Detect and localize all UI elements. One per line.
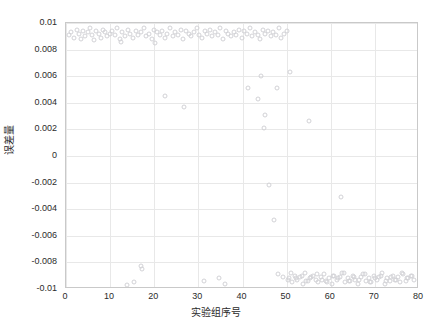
x-tick-label: 70 xyxy=(369,291,379,301)
data-point xyxy=(346,279,351,284)
gridline-horizontal xyxy=(66,209,417,210)
gridline-horizontal xyxy=(66,76,417,77)
data-point xyxy=(405,276,410,281)
x-tick-label: 0 xyxy=(62,291,67,301)
data-point xyxy=(168,26,173,31)
data-point xyxy=(288,70,293,75)
gridline-horizontal xyxy=(66,156,417,157)
data-point xyxy=(140,267,145,272)
y-tick-label: -0.002 xyxy=(0,177,57,187)
data-point xyxy=(272,217,277,222)
data-point xyxy=(152,40,157,45)
data-point xyxy=(336,276,341,281)
data-point xyxy=(92,38,97,43)
data-point xyxy=(321,272,326,277)
data-point xyxy=(293,276,298,281)
data-point xyxy=(165,31,170,36)
data-point xyxy=(216,276,221,281)
data-point xyxy=(276,26,281,31)
data-point xyxy=(285,277,290,282)
data-point xyxy=(289,280,294,285)
data-point xyxy=(221,36,226,41)
gridline-vertical xyxy=(243,23,244,287)
data-point xyxy=(258,36,263,41)
gridline-horizontal xyxy=(66,50,417,51)
gridline-horizontal xyxy=(66,262,417,263)
data-point xyxy=(263,112,268,117)
data-point xyxy=(146,31,151,36)
data-point xyxy=(284,28,289,33)
data-point xyxy=(262,126,267,131)
data-point xyxy=(329,281,334,286)
data-point xyxy=(314,272,319,277)
x-tick-label: 50 xyxy=(281,291,291,301)
data-point xyxy=(378,273,383,278)
data-point xyxy=(368,280,373,285)
data-point xyxy=(178,27,183,32)
gridline-horizontal xyxy=(66,183,417,184)
data-point xyxy=(299,273,304,278)
data-point xyxy=(69,30,74,35)
x-tick-label: 30 xyxy=(192,291,202,301)
gridline-horizontal xyxy=(66,23,417,24)
gridline-vertical xyxy=(110,23,111,287)
y-axis-label: 误差量 xyxy=(1,110,16,170)
y-tick-label: -0.008 xyxy=(0,256,57,266)
x-tick-label: 20 xyxy=(148,291,158,301)
y-tick-label: 0.008 xyxy=(0,44,57,54)
gridline-horizontal xyxy=(66,236,417,237)
data-point xyxy=(239,35,244,40)
data-point xyxy=(218,26,223,31)
chart-figure: 0.010.0080.0060.0040.0020-0.002-0.004-0.… xyxy=(0,0,432,331)
data-point xyxy=(199,35,204,40)
data-point xyxy=(115,26,120,31)
gridline-vertical xyxy=(198,23,199,287)
data-point xyxy=(234,32,239,37)
data-point xyxy=(399,271,404,276)
x-tick-label: 40 xyxy=(236,291,246,301)
gridline-horizontal xyxy=(66,129,417,130)
data-point xyxy=(247,26,252,31)
x-tick-label: 60 xyxy=(325,291,335,301)
data-point xyxy=(306,119,311,124)
y-tick-label: 0.006 xyxy=(0,70,57,80)
y-tick-label: -0.004 xyxy=(0,203,57,213)
data-point xyxy=(124,283,129,288)
gridline-vertical xyxy=(154,23,155,287)
y-tick-label: 0.004 xyxy=(0,97,57,107)
data-point xyxy=(132,280,137,285)
data-point xyxy=(112,32,117,37)
x-axis-label: 实验组序号 xyxy=(0,304,432,319)
data-point xyxy=(176,32,181,37)
data-point xyxy=(266,183,271,188)
data-point xyxy=(274,86,279,91)
data-point xyxy=(215,32,220,37)
data-point xyxy=(274,32,279,37)
data-point xyxy=(131,35,136,40)
data-point xyxy=(118,39,123,44)
x-tick-label: 10 xyxy=(104,291,114,301)
y-tick-label: -0.006 xyxy=(0,230,57,240)
data-point xyxy=(71,35,76,40)
data-point xyxy=(389,275,394,280)
data-point xyxy=(304,279,309,284)
data-point xyxy=(319,277,324,282)
data-point xyxy=(207,27,212,32)
data-point xyxy=(362,272,367,277)
gridline-horizontal xyxy=(66,103,417,104)
gridline-vertical xyxy=(375,23,376,287)
y-tick-label: -0.01 xyxy=(0,283,57,293)
data-point xyxy=(98,35,103,40)
data-point xyxy=(141,26,146,31)
data-point xyxy=(339,195,344,200)
y-tick-label: 0.01 xyxy=(0,17,57,27)
data-point xyxy=(181,36,186,41)
data-point xyxy=(383,279,388,284)
data-point xyxy=(309,275,314,280)
data-point xyxy=(289,271,294,276)
data-point xyxy=(87,26,92,31)
data-point xyxy=(163,94,168,99)
data-point xyxy=(222,281,227,286)
gridline-vertical xyxy=(66,23,67,287)
data-point xyxy=(244,31,249,36)
